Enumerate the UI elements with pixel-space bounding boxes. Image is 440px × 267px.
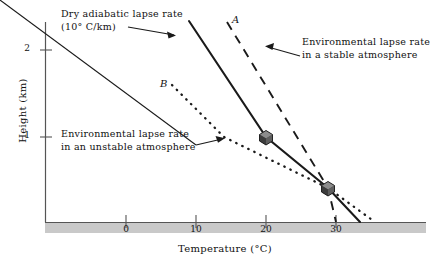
leader-arrow-stable bbox=[265, 43, 300, 56]
annotation-unstable-lapse-rate: Environmental lapse rate in an unstable … bbox=[61, 128, 196, 153]
annotation-stable-lapse-rate: Environmental lapse rate in a stable atm… bbox=[302, 36, 430, 61]
annotation-dry-adiabatic-line1: Dry adiabatic lapse rate bbox=[61, 8, 183, 21]
annotation-stable-line1: Environmental lapse rate bbox=[302, 36, 430, 49]
x-tick-label-30: 30 bbox=[326, 224, 346, 234]
annotation-unstable-line1: Environmental lapse rate bbox=[61, 128, 196, 141]
y-axis-title: Height (km) bbox=[17, 61, 28, 161]
ground-band bbox=[45, 223, 426, 233]
curve-unstable-lapse-rate bbox=[172, 85, 375, 222]
curve-label-a: A bbox=[232, 14, 239, 25]
annotation-unstable-line2: in an unstable atmosphere bbox=[61, 141, 196, 154]
x-tick-label-20: 20 bbox=[256, 224, 276, 234]
x-axis-title: Temperature (°C) bbox=[150, 243, 300, 254]
annotation-dry-adiabatic-line2: (10° C/km) bbox=[61, 21, 183, 34]
curve-label-b: B bbox=[160, 78, 167, 89]
x-tick-label-10: 10 bbox=[186, 224, 206, 234]
annotation-stable-line2: in a stable atmosphere bbox=[302, 49, 430, 62]
annotation-dry-adiabatic: Dry adiabatic lapse rate (10° C/km) bbox=[61, 8, 183, 33]
air-parcel-upper-marker bbox=[260, 131, 273, 146]
x-tick-label-0: 0 bbox=[116, 224, 136, 234]
y-tick-label-2: 2 bbox=[20, 43, 34, 53]
lapse-rate-figure: 2 1 0 10 20 30 Height (km) Temperature (… bbox=[0, 0, 440, 267]
